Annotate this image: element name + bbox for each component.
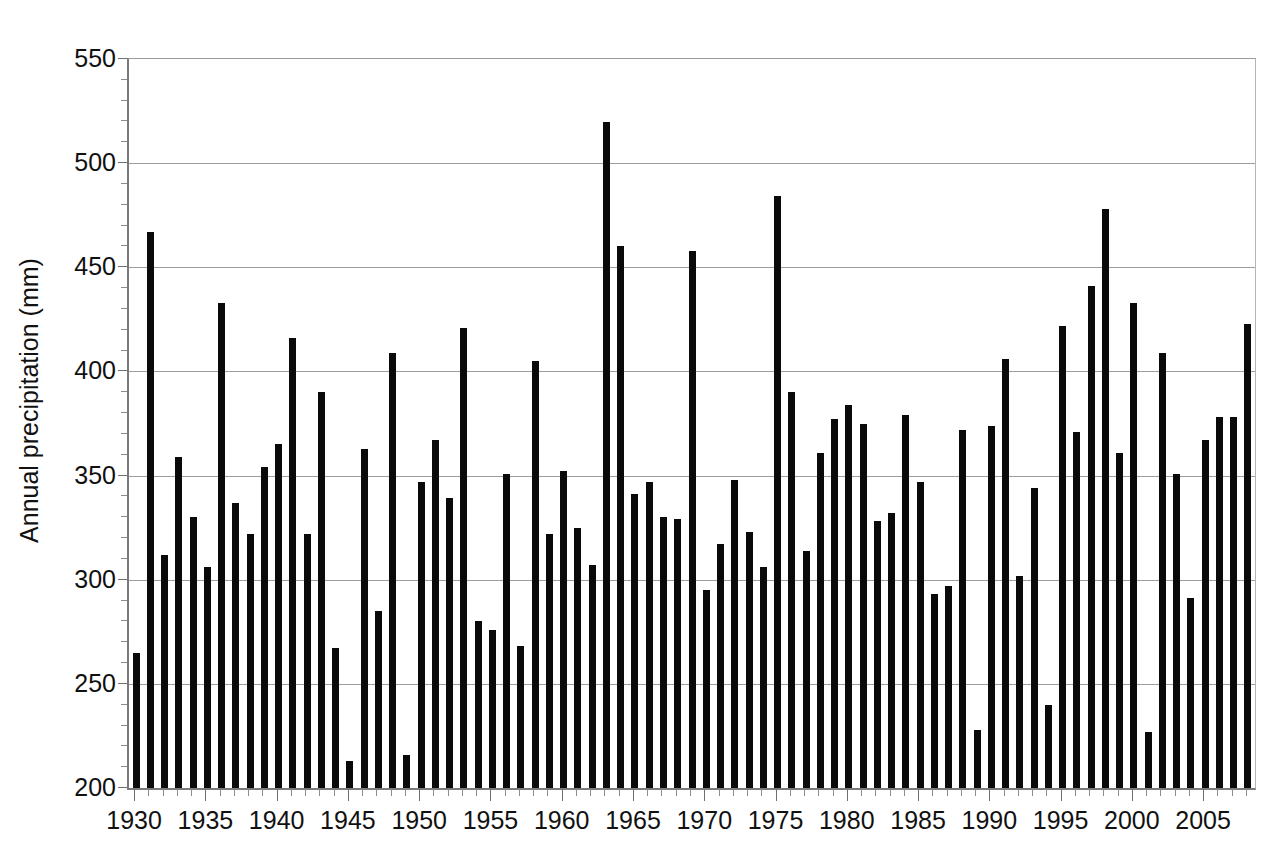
x-axis-tick-minor <box>505 789 506 796</box>
x-axis-tick-minor <box>833 789 834 796</box>
x-axis-tick-label: 1935 <box>178 806 234 835</box>
x-axis-tick-minor <box>947 789 948 796</box>
y-axis-title: Annual precipitation (mm) <box>0 0 58 800</box>
x-axis-tick-minor <box>1103 789 1104 796</box>
bar <box>1244 324 1251 788</box>
y-axis-tick-minor <box>121 79 127 80</box>
bar <box>218 303 225 788</box>
x-axis-tick-minor <box>1189 789 1190 796</box>
x-axis-tick-minor <box>932 789 933 796</box>
bar <box>289 338 296 788</box>
bar <box>1216 417 1223 788</box>
bar <box>1159 353 1166 788</box>
y-axis-tick-minor <box>121 558 127 559</box>
x-axis-tick-minor <box>661 789 662 796</box>
x-axis-tick-minor <box>433 789 434 796</box>
x-axis-tick-minor <box>405 789 406 796</box>
bar <box>204 567 211 788</box>
bar <box>517 646 524 788</box>
x-axis-tick-major <box>847 789 848 801</box>
y-axis-tick-minor <box>121 308 127 309</box>
y-axis-tick-label: 200 <box>74 773 116 802</box>
y-axis-labels: 200250300350400450500550 <box>58 0 116 865</box>
bar <box>546 534 553 788</box>
y-axis-tick-minor <box>121 245 127 246</box>
x-axis-tick-major <box>704 789 705 801</box>
x-axis-tick-minor <box>476 789 477 796</box>
y-axis-tick-minor <box>121 183 127 184</box>
y-axis-title-text: Annual precipitation (mm) <box>15 258 44 543</box>
bar <box>589 565 596 788</box>
x-axis-tick-major <box>277 789 278 801</box>
y-axis-tick-minor <box>121 225 127 226</box>
y-axis-tick-minor <box>121 516 127 517</box>
x-axis-tick-minor <box>1175 789 1176 796</box>
x-axis-tick-minor <box>1089 789 1090 796</box>
bar <box>1031 488 1038 788</box>
bar <box>646 482 653 788</box>
x-axis-tick-label: 1950 <box>391 806 447 835</box>
bar <box>689 251 696 788</box>
x-axis-tick-minor <box>1032 789 1033 796</box>
bar <box>389 353 396 788</box>
x-axis-tick-major <box>490 789 491 801</box>
x-axis-ticks <box>127 789 1257 803</box>
x-axis-tick-label: 1975 <box>748 806 804 835</box>
x-axis-tick-minor <box>334 789 335 796</box>
y-axis-tick-minor <box>121 141 127 142</box>
x-axis-tick-major <box>562 789 563 801</box>
bar <box>1102 209 1109 788</box>
bar <box>332 648 339 788</box>
bar <box>831 419 838 788</box>
x-axis-tick-minor <box>362 789 363 796</box>
bar <box>475 621 482 788</box>
bar <box>1202 440 1209 788</box>
x-axis-tick-label: 1970 <box>676 806 732 835</box>
y-axis-tick-minor <box>121 412 127 413</box>
bar <box>574 528 581 788</box>
bar <box>275 444 282 788</box>
bar <box>617 246 624 788</box>
bar <box>1016 576 1023 788</box>
bar <box>1187 598 1194 788</box>
x-axis-tick-minor <box>733 789 734 796</box>
bar <box>375 611 382 788</box>
bar-series <box>129 59 1255 788</box>
bar <box>161 555 168 788</box>
x-axis-tick-minor <box>590 789 591 796</box>
x-axis-tick-minor <box>818 789 819 796</box>
y-axis-tick-minor <box>121 204 127 205</box>
x-axis-tick-minor <box>547 789 548 796</box>
x-axis-tick-label: 1965 <box>605 806 661 835</box>
x-axis-tick-minor <box>319 789 320 796</box>
x-axis-tick-major <box>419 789 420 801</box>
bar <box>1045 705 1052 788</box>
bar <box>803 551 810 788</box>
bar <box>902 415 909 788</box>
x-axis-tick-label: 2005 <box>1175 806 1231 835</box>
x-axis-tick-minor <box>1075 789 1076 796</box>
x-axis-tick-label: 1945 <box>320 806 376 835</box>
bar <box>760 567 767 788</box>
bar <box>931 594 938 788</box>
bar <box>845 405 852 788</box>
bar <box>959 430 966 788</box>
y-axis-tick-minor <box>121 454 127 455</box>
bar <box>988 426 995 788</box>
bar <box>460 328 467 788</box>
bar <box>361 449 368 789</box>
bar <box>489 630 496 788</box>
x-axis-tick-minor <box>1004 789 1005 796</box>
bar <box>503 474 510 789</box>
bar <box>817 453 824 788</box>
x-axis-tick-minor <box>619 789 620 796</box>
bar <box>147 232 154 788</box>
y-axis-tick-minor <box>121 745 127 746</box>
x-axis-tick-major <box>205 789 206 801</box>
bar <box>432 440 439 788</box>
x-axis-tick-minor <box>462 789 463 796</box>
x-axis-tick-minor <box>890 789 891 796</box>
bar <box>731 480 738 788</box>
bar <box>1145 732 1152 788</box>
bar <box>190 517 197 788</box>
